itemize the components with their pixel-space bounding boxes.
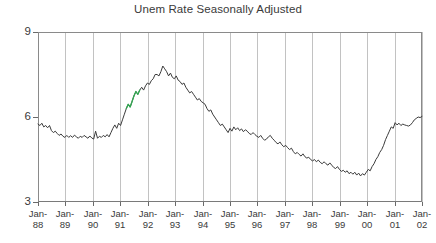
x-tick-label-month: Jan- (404, 208, 436, 219)
x-tick-label-year: 02 (404, 219, 436, 230)
x-tick-label: Jan-02 (404, 208, 436, 230)
x-tick-mark (422, 202, 423, 206)
x-tick-mark (340, 202, 341, 206)
x-tick-mark (285, 202, 286, 206)
x-tick-mark (367, 202, 368, 206)
x-tick-mark (312, 202, 313, 206)
x-tick-mark (148, 202, 149, 206)
x-tick-mark (93, 202, 94, 206)
chart-title: Unem Rate Seasonally Adjusted (0, 3, 436, 15)
chart-container: Unem Rate Seasonally Adjusted 369 Jan-88… (0, 0, 436, 243)
x-tick-mark (175, 202, 176, 206)
x-tick-mark (203, 202, 204, 206)
plot-area (38, 32, 422, 202)
y-tick-label: 9 (25, 26, 31, 38)
series-polyline (38, 66, 422, 176)
series-highlight-segment (126, 90, 139, 108)
x-tick-mark (65, 202, 66, 206)
x-tick-mark (38, 202, 39, 206)
x-tick-mark (395, 202, 396, 206)
x-tick-mark (257, 202, 258, 206)
y-tick-label: 6 (25, 111, 31, 123)
x-tick-mark (120, 202, 121, 206)
gridline-vertical (422, 32, 423, 202)
series-line-unemployment-rate (38, 32, 422, 202)
y-tick-label: 3 (25, 196, 31, 208)
x-tick-mark (230, 202, 231, 206)
